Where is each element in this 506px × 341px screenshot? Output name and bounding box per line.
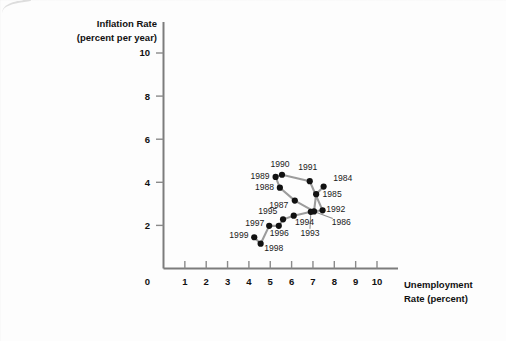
x-tick-label: 2 bbox=[204, 276, 209, 287]
point-label-1996: 1996 bbox=[270, 228, 289, 238]
point-label-1999: 1999 bbox=[229, 230, 248, 240]
data-point-1990[interactable] bbox=[279, 172, 285, 178]
y-axis-tick-labels: 246810 bbox=[139, 47, 150, 230]
point-label-1995: 1995 bbox=[258, 206, 277, 216]
point-label-1993: 1993 bbox=[300, 228, 319, 238]
data-point-1989[interactable] bbox=[272, 174, 278, 180]
data-point-1993[interactable] bbox=[308, 209, 314, 215]
point-label-1990: 1990 bbox=[271, 159, 290, 169]
y-axis-title-line2: (percent per year) bbox=[77, 32, 157, 43]
data-point-1992[interactable] bbox=[319, 207, 325, 213]
x-tick-label: 0 bbox=[145, 276, 150, 287]
data-point-1998[interactable] bbox=[258, 241, 264, 247]
point-label-1997: 1997 bbox=[245, 218, 264, 228]
data-point-1987[interactable] bbox=[292, 198, 298, 204]
y-tick-label: 4 bbox=[145, 177, 151, 188]
data-point-year-labels: 1984198519861987198819891990199119921993… bbox=[229, 159, 352, 253]
x-axis-title-line2: Rate (percent) bbox=[404, 293, 468, 304]
y-tick-label: 6 bbox=[145, 134, 150, 145]
x-tick-label: 7 bbox=[310, 276, 315, 287]
x-tick-label: 6 bbox=[289, 276, 294, 287]
x-tick-label: 5 bbox=[268, 276, 274, 287]
phillips-curve-figure: 246810 012345678910 19841985198619871988… bbox=[0, 0, 506, 341]
x-axis-ticks bbox=[185, 261, 377, 269]
point-label-1994: 1994 bbox=[295, 217, 314, 227]
point-label-1984: 1984 bbox=[333, 173, 352, 183]
scatter-chart-svg: 246810 012345678910 19841985198619871988… bbox=[0, 0, 506, 341]
x-tick-label: 10 bbox=[372, 276, 383, 287]
y-axis-title-line1: Inflation Rate bbox=[97, 18, 157, 29]
x-tick-label: 8 bbox=[332, 276, 337, 287]
y-tick-label: 2 bbox=[145, 220, 150, 231]
point-label-1989: 1989 bbox=[250, 171, 269, 181]
x-tick-label: 3 bbox=[225, 276, 230, 287]
data-point-1988[interactable] bbox=[277, 185, 283, 191]
point-label-1992: 1992 bbox=[326, 204, 345, 214]
x-axis-title-line1: Unemployment bbox=[404, 279, 473, 290]
x-tick-label: 9 bbox=[353, 276, 358, 287]
point-label-1988: 1988 bbox=[255, 182, 274, 192]
x-axis-tick-labels: 012345678910 bbox=[145, 276, 383, 287]
data-point-1995[interactable] bbox=[280, 216, 286, 222]
point-label-1985: 1985 bbox=[323, 189, 342, 199]
data-point-1985[interactable] bbox=[313, 191, 319, 197]
x-tick-label: 1 bbox=[182, 276, 188, 287]
point-label-1991: 1991 bbox=[298, 162, 317, 172]
y-tick-label: 10 bbox=[139, 47, 150, 58]
data-point-1999[interactable] bbox=[251, 234, 257, 240]
y-tick-label: 8 bbox=[145, 91, 150, 102]
y-axis-ticks bbox=[156, 53, 164, 225]
x-tick-label: 4 bbox=[246, 276, 252, 287]
point-label-1998: 1998 bbox=[264, 243, 283, 253]
point-label-1986: 1986 bbox=[332, 217, 351, 227]
data-point-1991[interactable] bbox=[307, 178, 313, 184]
